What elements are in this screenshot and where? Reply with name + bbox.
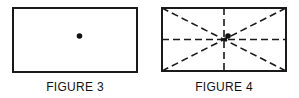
figure-3-rectangle [13,8,137,72]
figure-4-caption: FIGURE 4 [174,80,274,94]
figure-4-diagram [162,8,286,71]
figure-3-caption: FIGURE 3 [25,80,125,94]
figure-3-diagram [13,8,137,72]
figure-4-center-mark [223,38,227,42]
figure-3-dot [77,33,83,39]
